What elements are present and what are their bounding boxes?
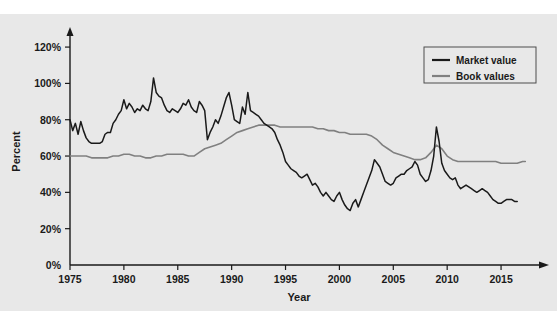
x-tick-label: 2000 — [328, 273, 352, 285]
legend-label-book-values: Book values — [456, 71, 515, 82]
x-tick-label: 2005 — [382, 273, 406, 285]
legend-label-market-value: Market value — [456, 55, 517, 66]
y-tick-label: 40% — [40, 186, 62, 198]
x-axis-arrow — [539, 262, 549, 269]
y-tick-label: 100% — [34, 77, 62, 89]
y-tick-label: 120% — [34, 41, 62, 53]
y-tick-label: 60% — [40, 150, 62, 162]
chart-canvas: 0%20%40%60%80%100%120%197519801985199019… — [0, 14, 557, 311]
x-tick-label: 2010 — [435, 273, 459, 285]
y-tick-label: 0% — [46, 259, 62, 271]
x-axis-title: Year — [287, 291, 311, 303]
x-tick-label: 1995 — [274, 273, 298, 285]
x-tick-label: 2015 — [489, 273, 513, 285]
x-tick-label: 1975 — [58, 273, 82, 285]
series-line-book-values — [70, 125, 525, 163]
x-tick-label: 1990 — [220, 273, 244, 285]
chart-figure: 0%20%40%60%80%100%120%197519801985199019… — [0, 14, 557, 311]
y-axis-arrow — [67, 27, 74, 36]
x-tick-label: 1980 — [112, 273, 136, 285]
x-tick-label: 1985 — [166, 273, 190, 285]
y-tick-label: 80% — [40, 114, 62, 126]
y-axis-title: Percent — [10, 131, 22, 172]
y-tick-label: 20% — [40, 223, 62, 235]
series-line-market-value — [70, 78, 517, 211]
